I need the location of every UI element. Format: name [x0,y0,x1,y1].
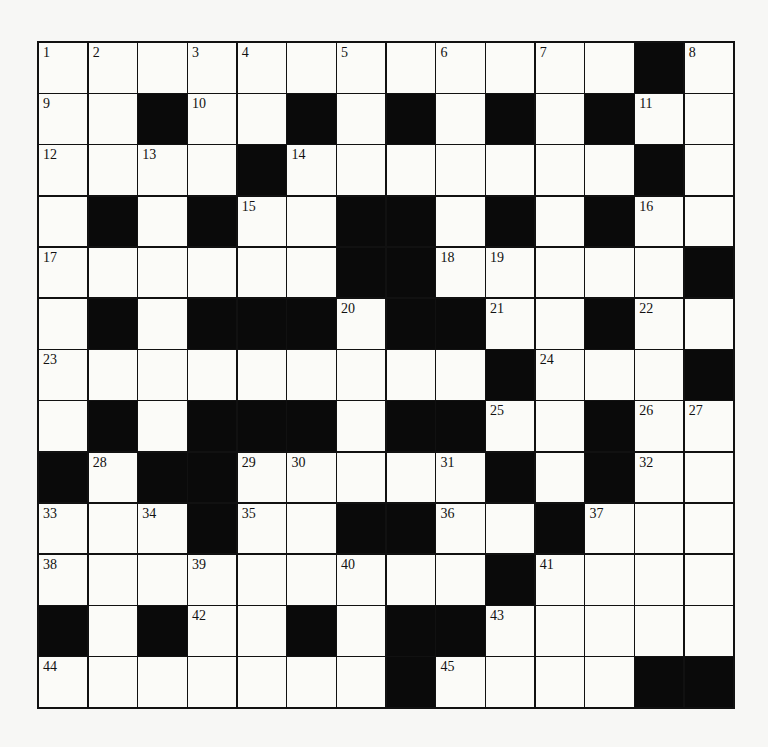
crossword-cell[interactable]: 2 [89,43,137,93]
crossword-cell[interactable] [685,94,733,144]
crossword-cell[interactable] [536,657,584,707]
crossword-cell[interactable] [436,197,484,247]
crossword-cell[interactable] [685,504,733,554]
crossword-cell[interactable] [188,145,236,195]
crossword-cell[interactable] [337,606,385,656]
crossword-cell[interactable] [436,350,484,400]
crossword-cell[interactable] [188,350,236,400]
crossword-cell[interactable]: 33 [39,504,87,554]
crossword-cell[interactable]: 30 [287,453,335,503]
crossword-cell[interactable] [39,197,87,247]
crossword-cell[interactable] [337,657,385,707]
crossword-cell[interactable]: 41 [536,555,584,605]
crossword-cell[interactable]: 37 [585,504,633,554]
crossword-cell[interactable] [536,248,584,298]
crossword-cell[interactable] [238,606,286,656]
crossword-cell[interactable] [287,504,335,554]
crossword-cell[interactable]: 3 [188,43,236,93]
crossword-cell[interactable]: 18 [436,248,484,298]
crossword-cell[interactable] [238,555,286,605]
crossword-cell[interactable] [486,145,534,195]
crossword-cell[interactable]: 17 [39,248,87,298]
crossword-cell[interactable] [89,606,137,656]
crossword-cell[interactable]: 10 [188,94,236,144]
crossword-cell[interactable]: 40 [337,555,385,605]
crossword-cell[interactable] [39,299,87,349]
crossword-cell[interactable] [635,504,683,554]
crossword-cell[interactable] [685,197,733,247]
crossword-cell[interactable]: 5 [337,43,385,93]
crossword-cell[interactable] [89,504,137,554]
crossword-cell[interactable] [287,657,335,707]
crossword-cell[interactable] [188,248,236,298]
crossword-cell[interactable]: 16 [635,197,683,247]
crossword-cell[interactable] [635,555,683,605]
crossword-cell[interactable]: 14 [287,145,335,195]
crossword-cell[interactable]: 19 [486,248,534,298]
crossword-cell[interactable] [138,299,186,349]
crossword-cell[interactable] [486,504,534,554]
crossword-cell[interactable] [635,248,683,298]
crossword-cell[interactable]: 38 [39,555,87,605]
crossword-cell[interactable] [287,555,335,605]
crossword-cell[interactable] [89,350,137,400]
crossword-cell[interactable] [287,43,335,93]
crossword-cell[interactable] [89,94,137,144]
crossword-cell[interactable]: 31 [436,453,484,503]
crossword-cell[interactable] [138,197,186,247]
crossword-cell[interactable] [337,145,385,195]
crossword-cell[interactable]: 20 [337,299,385,349]
crossword-cell[interactable] [287,350,335,400]
crossword-cell[interactable] [536,299,584,349]
crossword-cell[interactable] [138,555,186,605]
crossword-cell[interactable]: 15 [238,197,286,247]
crossword-cell[interactable] [238,657,286,707]
crossword-cell[interactable] [238,350,286,400]
crossword-cell[interactable] [138,43,186,93]
crossword-cell[interactable] [89,555,137,605]
crossword-cell[interactable] [536,453,584,503]
crossword-cell[interactable] [585,555,633,605]
crossword-cell[interactable] [486,43,534,93]
crossword-cell[interactable] [585,606,633,656]
crossword-cell[interactable] [287,197,335,247]
crossword-cell[interactable] [337,94,385,144]
crossword-cell[interactable] [635,350,683,400]
crossword-cell[interactable]: 1 [39,43,87,93]
crossword-cell[interactable] [287,248,335,298]
crossword-cell[interactable] [387,453,435,503]
crossword-cell[interactable]: 44 [39,657,87,707]
crossword-cell[interactable]: 22 [635,299,683,349]
crossword-cell[interactable] [387,43,435,93]
crossword-cell[interactable] [387,555,435,605]
crossword-cell[interactable] [436,94,484,144]
crossword-cell[interactable] [436,555,484,605]
crossword-cell[interactable] [337,453,385,503]
crossword-cell[interactable] [536,401,584,451]
crossword-cell[interactable] [436,145,484,195]
crossword-cell[interactable]: 28 [89,453,137,503]
crossword-cell[interactable] [89,248,137,298]
crossword-cell[interactable]: 4 [238,43,286,93]
crossword-cell[interactable]: 8 [685,43,733,93]
crossword-cell[interactable] [337,350,385,400]
crossword-cell[interactable] [536,197,584,247]
crossword-cell[interactable]: 25 [486,401,534,451]
crossword-cell[interactable] [685,555,733,605]
crossword-cell[interactable] [685,453,733,503]
crossword-cell[interactable] [685,606,733,656]
crossword-cell[interactable] [685,145,733,195]
crossword-cell[interactable] [536,606,584,656]
crossword-cell[interactable]: 12 [39,145,87,195]
crossword-cell[interactable]: 43 [486,606,534,656]
crossword-cell[interactable]: 27 [685,401,733,451]
crossword-cell[interactable]: 11 [635,94,683,144]
crossword-cell[interactable] [685,299,733,349]
crossword-cell[interactable]: 32 [635,453,683,503]
crossword-cell[interactable] [138,248,186,298]
crossword-cell[interactable] [188,657,236,707]
crossword-cell[interactable]: 23 [39,350,87,400]
crossword-cell[interactable] [89,145,137,195]
crossword-cell[interactable]: 13 [138,145,186,195]
crossword-cell[interactable] [138,657,186,707]
